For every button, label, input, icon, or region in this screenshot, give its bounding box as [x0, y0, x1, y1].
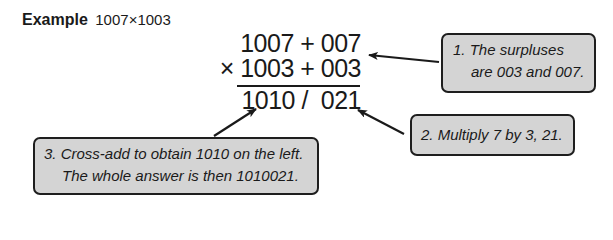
callout-2: 2. Multiply 7 by 3, 21.: [410, 114, 575, 156]
callout-2-line-1: 2. Multiply 7 by 3, 21.: [421, 124, 573, 146]
arrow-3-icon: [214, 109, 256, 136]
arrow-2-icon: [358, 110, 404, 134]
callout-3-line-1: 3. Cross-add to obtain 1010 on the left.: [44, 143, 317, 165]
callout-3-line-2: The whole answer is then 1010021.: [44, 165, 317, 187]
callout-3: 3. Cross-add to obtain 1010 on the left.…: [33, 137, 319, 195]
arrow-1-icon: [369, 55, 439, 62]
callout-1: 1. The surpluses are 003 and 007.: [441, 33, 596, 93]
callout-1-line-2: are 003 and 007.: [453, 61, 594, 83]
callout-1-line-1: 1. The surpluses: [453, 39, 594, 61]
